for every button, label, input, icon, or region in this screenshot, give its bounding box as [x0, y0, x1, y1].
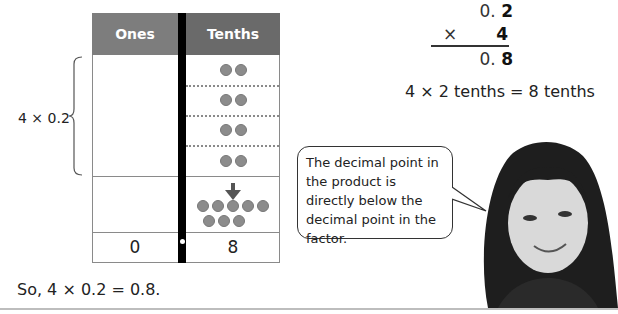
student-photo	[468, 138, 618, 308]
dotted-row-divider	[186, 145, 279, 147]
tenths-equation: 4 × 2 tenths = 8 tenths	[405, 82, 595, 101]
decimal-point-marker	[180, 239, 185, 244]
tenth-counter	[203, 215, 215, 227]
product: 0. 8	[480, 49, 513, 69]
groups-label: 4 × 0.2	[18, 110, 70, 126]
tenths-header: Tenths	[186, 13, 280, 55]
tenth-counter	[233, 215, 245, 227]
dotted-row-divider	[186, 115, 279, 117]
tenth-counter	[227, 200, 239, 212]
place-value-chart: Ones Tenths 0 8	[92, 13, 280, 263]
decimal-divider-bar	[178, 13, 186, 263]
group-counters-4	[186, 155, 280, 167]
combined-counters-row-1	[186, 200, 280, 212]
tenth-counter	[257, 200, 269, 212]
tenth-counter	[220, 124, 232, 136]
ones-result: 0	[92, 237, 178, 257]
tenth-counter	[242, 200, 254, 212]
bottom-divider	[0, 308, 618, 310]
group-counters-2	[186, 94, 280, 106]
tenth-counter	[218, 215, 230, 227]
multiply-sign: ×	[443, 24, 457, 44]
tenth-counter	[220, 155, 232, 167]
group-counters-1	[186, 64, 280, 76]
tenth-counter	[235, 64, 247, 76]
tenth-counter	[220, 94, 232, 106]
multiplier: 4	[496, 24, 508, 44]
tenth-counter	[212, 200, 224, 212]
tenth-counter	[235, 155, 247, 167]
tenth-counter	[235, 94, 247, 106]
tenth-counter	[197, 200, 209, 212]
sum-rule	[431, 45, 509, 47]
cutoff-text-line	[20, 0, 350, 3]
tenth-counter	[235, 124, 247, 136]
dotted-row-divider	[186, 85, 279, 87]
conclusion-text: So, 4 × 0.2 = 0.8.	[17, 280, 160, 299]
tenth-counter	[220, 64, 232, 76]
speech-bubble: The decimal point in the product is dire…	[297, 146, 453, 239]
combined-counters-row-2	[186, 215, 280, 227]
multiplicand: 0. 2	[480, 1, 513, 21]
tenths-result: 8	[186, 237, 280, 257]
group-counters-3	[186, 124, 280, 136]
ones-header: Ones	[92, 13, 178, 55]
arrow-down-icon	[225, 183, 241, 201]
curly-brace-icon	[69, 56, 83, 176]
